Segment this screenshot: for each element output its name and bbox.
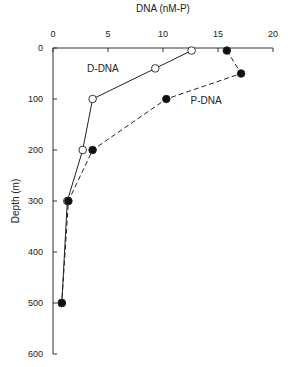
filled-circle-marker bbox=[58, 299, 66, 307]
y-tick-label: 400 bbox=[28, 247, 43, 257]
x-tick-label: 10 bbox=[158, 29, 168, 39]
y-tick-label: 100 bbox=[28, 94, 43, 104]
open-circle-marker bbox=[79, 146, 87, 154]
d-dna-label: D-DNA bbox=[87, 63, 119, 74]
filled-circle-marker bbox=[237, 70, 245, 78]
filled-circle-marker bbox=[223, 47, 231, 55]
p-dna-label: P-DNA bbox=[191, 95, 222, 106]
y-tick-label: 600 bbox=[28, 349, 43, 359]
x-axis-title: DNA (nM-P) bbox=[136, 3, 190, 14]
p-dna-line bbox=[62, 51, 241, 304]
open-circle-marker bbox=[89, 95, 97, 103]
y-tick-label: 0 bbox=[38, 43, 43, 53]
open-circle-marker bbox=[152, 65, 160, 73]
open-circle-marker bbox=[188, 47, 196, 55]
x-tick-label: 20 bbox=[268, 29, 278, 39]
depth-profile-chart: DNA (nM-P) Depth (m) 0510152001002003004… bbox=[0, 0, 292, 367]
filled-circle-marker bbox=[65, 197, 73, 205]
series-d-dna bbox=[58, 47, 195, 307]
x-tick-label: 5 bbox=[105, 29, 110, 39]
y-tick-label: 500 bbox=[28, 298, 43, 308]
filled-circle-marker bbox=[163, 95, 171, 103]
x-tick-label: 0 bbox=[50, 29, 55, 39]
series-layer bbox=[58, 47, 245, 307]
y-tick-label: 200 bbox=[28, 145, 43, 155]
filled-circle-marker bbox=[89, 146, 97, 154]
axes: 051015200100200300400500600 bbox=[28, 29, 278, 359]
y-axis-title: Depth (m) bbox=[10, 179, 21, 223]
y-tick-label: 300 bbox=[28, 196, 43, 206]
x-tick-label: 15 bbox=[213, 29, 223, 39]
d-dna-line bbox=[62, 51, 192, 304]
series-p-dna bbox=[58, 47, 245, 307]
